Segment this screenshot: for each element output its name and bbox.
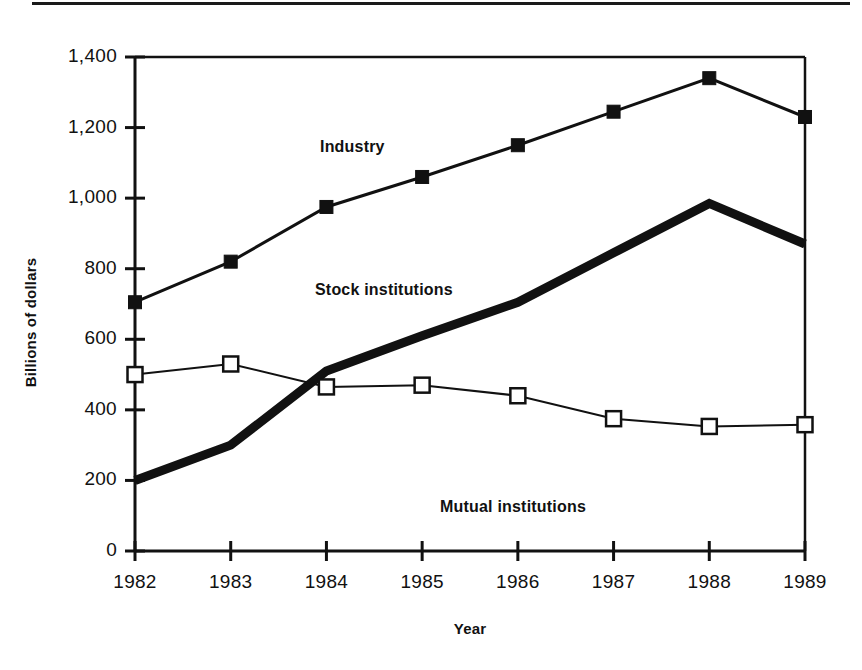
y-tick-label-400: 400 [31, 398, 117, 420]
y-tick-label-200: 200 [31, 468, 117, 490]
marker-industry-1984 [320, 200, 333, 213]
y-tick-label-800: 800 [31, 257, 117, 279]
x-tick-label-1982: 1982 [90, 571, 180, 593]
x-tick-label-1988: 1988 [664, 571, 754, 593]
marker-mutual-institutions-1988 [702, 419, 717, 434]
marker-industry-1983 [224, 255, 237, 268]
chart-tick-marks [125, 57, 805, 561]
x-tick-label-1986: 1986 [473, 571, 563, 593]
series-label-mutual-institutions: Mutual institutions [440, 498, 586, 516]
chart-axes [135, 57, 805, 551]
x-tick-label-1987: 1987 [569, 571, 659, 593]
x-tick-label-1984: 1984 [281, 571, 371, 593]
x-axis-title: Year [370, 620, 570, 637]
series-label-industry: Industry [320, 138, 385, 156]
marker-mutual-institutions-1982 [128, 367, 143, 382]
series-line-mutual-institutions [135, 364, 805, 426]
marker-industry-1988 [703, 72, 716, 85]
marker-industry-1985 [416, 170, 429, 183]
marker-industry-1987 [607, 105, 620, 118]
marker-mutual-institutions-1989 [798, 417, 813, 432]
marker-industry-1989 [799, 110, 812, 123]
y-tick-label-1200: 1,200 [31, 116, 117, 138]
y-tick-label-600: 600 [31, 327, 117, 349]
y-axis-title: Billions of dollars [22, 223, 39, 423]
x-tick-label-1985: 1985 [377, 571, 467, 593]
marker-mutual-institutions-1985 [415, 378, 430, 393]
x-tick-label-1989: 1989 [760, 571, 850, 593]
chart-series-lines [128, 72, 813, 481]
marker-mutual-institutions-1986 [510, 388, 525, 403]
figure-container: 02004006008001,0001,2001,400 19821983198… [0, 0, 862, 670]
marker-industry-1982 [129, 296, 142, 309]
marker-industry-1986 [511, 139, 524, 152]
y-tick-label-0: 0 [31, 539, 117, 561]
series-line-stock-institutions [135, 203, 805, 480]
line-chart-canvas [0, 0, 862, 670]
marker-mutual-institutions-1987 [606, 411, 621, 426]
x-tick-label-1983: 1983 [186, 571, 276, 593]
series-label-stock-institutions: Stock institutions [315, 281, 453, 299]
marker-mutual-institutions-1984 [319, 379, 334, 394]
y-tick-label-1000: 1,000 [31, 186, 117, 208]
marker-mutual-institutions-1983 [223, 356, 238, 371]
y-tick-label-1400: 1,400 [31, 45, 117, 67]
